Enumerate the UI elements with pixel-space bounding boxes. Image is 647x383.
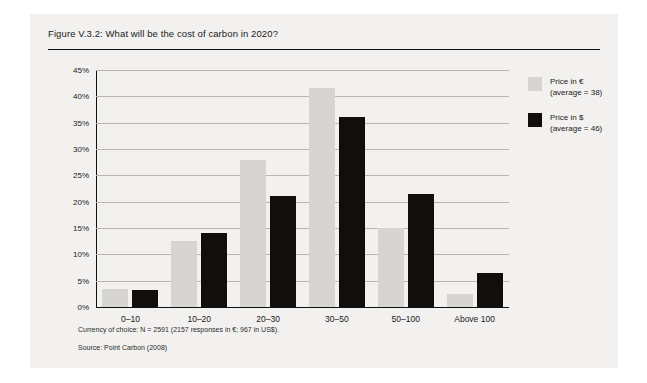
y-axis-tick-label: 30% bbox=[73, 145, 89, 154]
legend-label-usd-line2: (average = 46) bbox=[550, 123, 628, 134]
bar-euro bbox=[102, 289, 128, 307]
note-source: Source: Point Carbon (2008) bbox=[78, 344, 167, 351]
x-axis-tick-label: 20–30 bbox=[256, 314, 280, 324]
y-axis bbox=[96, 70, 97, 308]
figure-card: Figure V.3.2: What will be the cost of c… bbox=[30, 14, 618, 368]
gridline bbox=[96, 281, 509, 282]
x-axis-tick-label: 50–100 bbox=[392, 314, 420, 324]
bar-euro bbox=[447, 294, 473, 307]
gridline bbox=[96, 307, 509, 308]
y-axis-tick-label: 45% bbox=[73, 66, 89, 75]
gridline bbox=[96, 202, 509, 203]
x-axis-tick-label: 0–10 bbox=[121, 314, 140, 324]
bar-euro bbox=[171, 241, 197, 307]
title-divider bbox=[48, 49, 600, 50]
legend-swatch-euro-icon bbox=[528, 77, 542, 91]
x-axis-tick-label: 30–50 bbox=[325, 314, 349, 324]
chart-legend: Price in € (average = 38) Price in $ (av… bbox=[528, 76, 628, 148]
y-axis-tick-label: 35% bbox=[73, 118, 89, 127]
bar-usd bbox=[132, 290, 158, 307]
y-axis-tick-label: 10% bbox=[73, 250, 89, 259]
y-axis-tick-label: 40% bbox=[73, 92, 89, 101]
legend-item-euro: Price in € (average = 38) bbox=[528, 76, 628, 98]
bar-euro bbox=[240, 160, 266, 307]
gridline bbox=[96, 70, 509, 71]
y-axis-tick-label: 5% bbox=[77, 276, 89, 285]
gridline bbox=[96, 175, 509, 176]
x-axis-tick-label: Above 100 bbox=[454, 314, 495, 324]
y-axis-tick-label: 25% bbox=[73, 171, 89, 180]
gridline bbox=[96, 123, 509, 124]
chart-plot-area: 0%5%10%15%20%25%30%35%40%45%0–1010–2020–… bbox=[96, 70, 509, 308]
legend-item-usd: Price in $ (average = 46) bbox=[528, 112, 628, 134]
x-axis-tick-label: 10–20 bbox=[187, 314, 211, 324]
legend-label-usd-line1: Price in $ bbox=[550, 112, 628, 123]
legend-label-euro-line1: Price in € bbox=[550, 76, 628, 87]
y-axis-tick-label: 20% bbox=[73, 197, 89, 206]
legend-label-euro-line2: (average = 38) bbox=[550, 87, 628, 98]
bar-euro bbox=[309, 88, 335, 307]
bar-usd bbox=[477, 273, 503, 307]
bar-usd bbox=[201, 233, 227, 307]
bar-usd bbox=[270, 196, 296, 307]
legend-swatch-usd-icon bbox=[528, 113, 542, 127]
gridline bbox=[96, 149, 509, 150]
gridline bbox=[96, 254, 509, 255]
gridline bbox=[96, 96, 509, 97]
bar-usd bbox=[408, 194, 434, 307]
y-axis-tick-label: 0% bbox=[77, 303, 89, 312]
bar-usd bbox=[339, 117, 365, 307]
bar-euro bbox=[378, 228, 404, 307]
gridline bbox=[96, 228, 509, 229]
figure-title: Figure V.3.2: What will be the cost of c… bbox=[48, 28, 278, 39]
note-currency: Currency of choice: N = 2591 (2157 respo… bbox=[78, 326, 279, 333]
y-axis-tick-label: 15% bbox=[73, 224, 89, 233]
